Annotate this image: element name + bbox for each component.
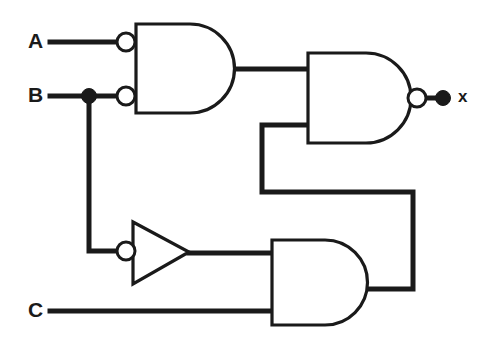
output-label-x: x xyxy=(458,87,468,106)
gate1-body xyxy=(136,24,235,113)
gate-and[interactable] xyxy=(272,240,368,325)
gate-nand[interactable] xyxy=(308,53,411,143)
gate3-body xyxy=(272,240,368,325)
input-label-a: A xyxy=(28,29,43,52)
gate2-body xyxy=(308,53,411,143)
inverter-input-bubble xyxy=(117,242,135,260)
input-bubble-a xyxy=(117,33,135,51)
gate-and-inverted-inputs[interactable] xyxy=(136,24,235,113)
gate-inverter[interactable] xyxy=(133,222,189,284)
circuit-diagram-canvas: A B C x xyxy=(0,0,493,349)
input-bubble-b xyxy=(117,87,135,105)
output-terminal-dot xyxy=(436,91,451,106)
inverter-body xyxy=(133,222,189,284)
input-label-b: B xyxy=(28,83,43,106)
wire-b-branch-to-inverter xyxy=(89,96,117,251)
b-branch-junction xyxy=(82,89,97,104)
logic-circuit-svg: A B C x xyxy=(0,0,493,349)
nand-output-bubble xyxy=(408,89,426,107)
input-label-c: C xyxy=(28,298,43,321)
